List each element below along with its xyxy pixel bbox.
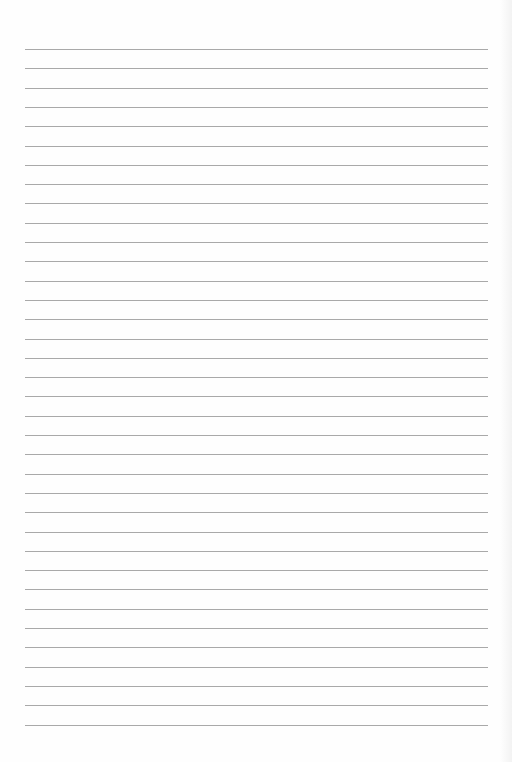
ruled-line	[25, 454, 488, 455]
ruled-line	[25, 705, 488, 706]
ruled-line	[25, 126, 488, 127]
ruled-line	[25, 88, 488, 89]
ruled-line	[25, 686, 488, 687]
ruled-line	[25, 107, 488, 108]
ruled-line	[25, 68, 488, 69]
ruled-line	[25, 49, 488, 50]
ruled-line	[25, 435, 488, 436]
ruled-line	[25, 165, 488, 166]
ruled-line	[25, 242, 488, 243]
ruled-line	[25, 223, 488, 224]
ruled-line	[25, 281, 488, 282]
ruled-line	[25, 609, 488, 610]
ruled-line	[25, 184, 488, 185]
ruled-line	[25, 493, 488, 494]
ruled-line	[25, 319, 488, 320]
ruled-line	[25, 203, 488, 204]
ruled-line	[25, 474, 488, 475]
ruled-line	[25, 647, 488, 648]
ruled-line	[25, 512, 488, 513]
ruled-line	[25, 377, 488, 378]
ruled-line	[25, 358, 488, 359]
ruled-line	[25, 261, 488, 262]
page-edge-shadow	[500, 0, 512, 762]
ruled-line	[25, 532, 488, 533]
ruled-line	[25, 416, 488, 417]
ruled-line	[25, 628, 488, 629]
ruled-line	[25, 570, 488, 571]
ruled-line	[25, 725, 488, 726]
ruled-line	[25, 339, 488, 340]
ruled-line	[25, 551, 488, 552]
ruled-line	[25, 589, 488, 590]
ruled-line	[25, 667, 488, 668]
ruled-line	[25, 300, 488, 301]
ruled-line	[25, 146, 488, 147]
ruled-line	[25, 396, 488, 397]
lined-paper-page	[0, 0, 512, 762]
